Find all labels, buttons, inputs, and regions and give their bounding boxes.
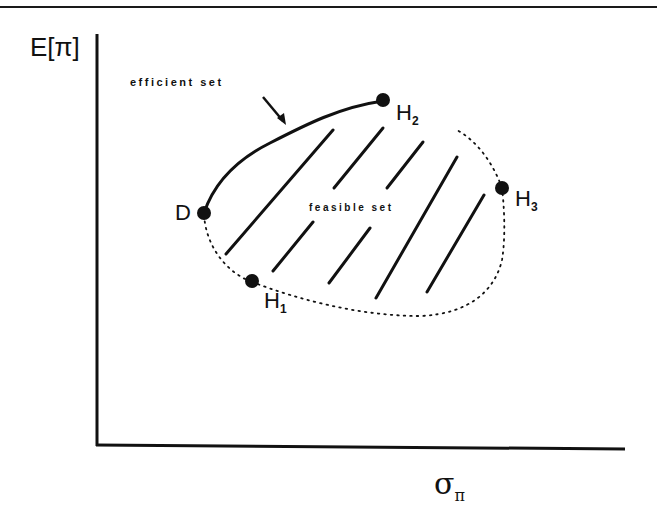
x-axis-label-main: σ	[434, 466, 454, 501]
efficient-set-curve	[204, 101, 383, 213]
point-D-label: D	[175, 200, 191, 226]
feasible-set-hatching	[226, 128, 484, 298]
point-H3-marker	[495, 181, 509, 195]
point-H2-marker	[376, 93, 390, 107]
point-D-marker	[197, 206, 211, 220]
diagram-canvas	[0, 0, 657, 527]
y-axis-label: E[π]	[30, 32, 80, 63]
feasible-set-label: feasible set	[309, 202, 393, 213]
point-H3-label: H3	[515, 186, 538, 214]
point-H2-label: H2	[396, 100, 419, 128]
x-axis	[96, 445, 625, 449]
point-H1-label: H1	[264, 288, 287, 316]
feasible-set-dotted-boundary	[204, 130, 504, 316]
efficient-set-label: efficient set	[130, 76, 224, 88]
x-axis-label: σπ	[434, 466, 465, 505]
point-H1-marker	[245, 274, 259, 288]
x-axis-label-sub: π	[454, 486, 465, 505]
